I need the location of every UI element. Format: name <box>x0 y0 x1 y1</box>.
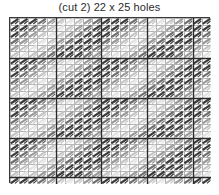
stitch-chart-grid <box>9 17 210 183</box>
chart-title: (cut 2) 22 x 25 holes <box>0 1 219 13</box>
stitch-chart-canvas <box>10 18 211 184</box>
